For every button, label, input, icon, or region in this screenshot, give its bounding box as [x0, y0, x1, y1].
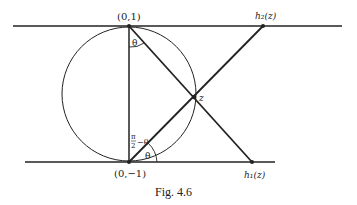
label-two: 2 — [131, 142, 135, 150]
figure-4-6: (0,1) (0,−1) z h₂(z) h₁(z) θ θ π 2 −θ Fi… — [0, 0, 357, 205]
point-h2 — [261, 24, 265, 28]
label-pi: π — [131, 133, 136, 141]
label-h2: h₂(z) — [255, 11, 277, 21]
label-theta-bottom: θ — [145, 151, 150, 161]
point-z — [192, 95, 196, 99]
label-top-point: (0,1) — [117, 11, 141, 22]
point-bottom — [127, 160, 131, 164]
figure-caption: Fig. 4.6 — [155, 185, 192, 199]
label-h1: h₁(z) — [244, 170, 266, 180]
point-h1 — [250, 160, 254, 164]
label-bottom-point: (0,−1) — [114, 168, 146, 179]
label-theta-top: θ — [132, 38, 137, 48]
point-top — [127, 24, 131, 28]
line-bottom-to-h2 — [129, 26, 263, 162]
label-z: z — [198, 93, 204, 103]
label-minus-theta: −θ — [137, 138, 149, 147]
